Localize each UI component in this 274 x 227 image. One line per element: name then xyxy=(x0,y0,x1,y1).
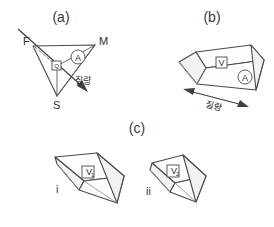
point-label-m: M xyxy=(99,35,108,47)
mass-arrow-head-b-left xyxy=(183,88,195,95)
boxed-q-text: Q xyxy=(54,63,59,69)
mass-label-panel-a: 질량 xyxy=(75,75,91,86)
roman-label-ii: ii xyxy=(146,185,151,197)
panel-c-item-i: V 1 i xyxy=(55,153,124,203)
circled-a-text-panel-a: A xyxy=(75,53,81,63)
figure-container: (a) F M S A Q 질량 xyxy=(0,0,274,227)
circled-a-text-panel-b: A xyxy=(242,73,248,83)
figure-svg: (a) F M S A Q 질량 xyxy=(0,0,274,227)
mass-arrow-head-b-right xyxy=(237,100,249,107)
panel-c-item-ii: V 2 ii xyxy=(146,155,206,202)
panel-b-label: (b) xyxy=(203,9,220,25)
boxed-v-text: V xyxy=(218,58,224,68)
mass-label-panel-b: 질량 xyxy=(205,98,223,113)
panel-c-label: (c) xyxy=(129,120,145,136)
panel-a: (a) F M S A Q 질량 xyxy=(18,9,108,111)
roman-label-i: i xyxy=(56,183,58,195)
panel-a-label: (a) xyxy=(52,9,69,25)
panel-c: (c) V 1 i xyxy=(55,120,206,203)
panel-b: (b) V A 질량 xyxy=(179,9,264,113)
point-label-s: S xyxy=(53,99,60,111)
point-label-f: F xyxy=(23,35,30,47)
